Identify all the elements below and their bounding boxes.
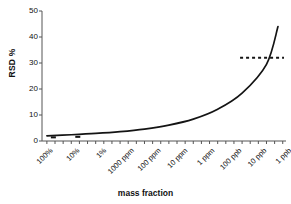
y-tick-label-40: 40 <box>20 33 38 41</box>
chart-figure: RSD % mass fraction 0 10 20 30 40 50 100… <box>0 0 291 204</box>
y-tick-label-50: 50 <box>20 7 38 15</box>
y-tick-label-10: 10 <box>20 111 38 119</box>
y-tick-label-0: 0 <box>20 137 38 145</box>
y-axis-title: RSD % <box>7 33 17 93</box>
x-axis-title: mass fraction <box>0 188 291 198</box>
y-tick-label-30: 30 <box>20 59 38 67</box>
y-tick-label-20: 20 <box>20 85 38 93</box>
series-line-horwitz <box>47 27 278 136</box>
plot-canvas <box>0 0 291 204</box>
